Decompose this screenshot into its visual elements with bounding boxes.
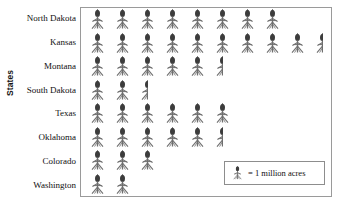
wheat-stalk-icon <box>110 127 135 148</box>
pictograph-row <box>81 102 331 126</box>
wheat-stalk-icon <box>260 33 285 54</box>
pictograph-row <box>81 32 331 56</box>
wheat-stalk-icon <box>185 127 210 148</box>
wheat-stalk-icon <box>185 56 210 77</box>
wheat-stalk-icon <box>160 56 185 77</box>
wheat-stalk-icon <box>185 33 210 54</box>
wheat-stalk-icon <box>110 9 135 30</box>
wheat-stalk-icon <box>85 80 110 101</box>
wheat-stalk-icon <box>160 33 185 54</box>
wheat-stalk-icon <box>85 33 110 54</box>
legend-label: = 1 million acres <box>246 168 305 178</box>
category-label-north-dakota: North Dakota <box>8 7 79 31</box>
category-labels: North Dakota Kansas Montana South Dakota… <box>8 7 79 197</box>
wheat-stalk-icon <box>85 150 110 171</box>
category-label-washington: Washington <box>8 173 79 197</box>
wheat-stalk-icon <box>135 33 160 54</box>
wheat-stalk-icon <box>210 33 235 54</box>
category-label-oklahoma: Oklahoma <box>8 126 79 150</box>
wheat-stalk-half-icon <box>310 33 335 54</box>
wheat-stalk-icon <box>110 80 135 101</box>
wheat-stalk-icon <box>135 150 160 171</box>
legend: = 1 million acres <box>224 161 325 185</box>
wheat-stalk-icon <box>135 127 160 148</box>
wheat-stalk-icon <box>210 9 235 30</box>
wheat-stalk-icon <box>85 127 110 148</box>
category-label-kansas: Kansas <box>8 31 79 55</box>
wheat-stalk-icon <box>229 164 246 182</box>
wheat-stalk-icon <box>160 103 185 124</box>
wheat-stalk-icon <box>135 103 160 124</box>
pictograph-row <box>81 8 331 32</box>
wheat-stalk-icon <box>110 174 135 195</box>
wheat-stalk-icon <box>110 56 135 77</box>
wheat-stalk-icon <box>135 56 160 77</box>
pictograph-row <box>81 79 331 103</box>
wheat-stalk-icon <box>110 103 135 124</box>
wheat-stalk-icon <box>85 174 110 195</box>
wheat-stalk-half-icon <box>210 127 235 148</box>
wheat-stalk-icon <box>235 33 260 54</box>
wheat-stalk-icon <box>185 9 210 30</box>
pictograph-row <box>81 55 331 79</box>
wheat-stalk-half-icon <box>210 56 235 77</box>
wheat-stalk-icon <box>260 9 285 30</box>
wheat-stalk-icon <box>135 9 160 30</box>
pictograph-row <box>81 126 331 150</box>
wheat-stalk-icon <box>110 33 135 54</box>
wheat-stalk-icon <box>235 9 260 30</box>
wheat-stalk-icon <box>160 127 185 148</box>
wheat-stalk-icon <box>110 150 135 171</box>
wheat-stalk-icon <box>160 9 185 30</box>
wheat-stalk-half-icon <box>135 80 160 101</box>
category-label-south-dakota: South Dakota <box>8 78 79 102</box>
wheat-stalk-icon <box>185 103 210 124</box>
wheat-stalk-icon <box>85 103 110 124</box>
wheat-stalk-icon <box>85 56 110 77</box>
wheat-stalk-icon <box>85 9 110 30</box>
pictograph-chart: States North Dakota Kansas Montana South… <box>0 0 338 201</box>
category-label-colorado: Colorado <box>8 150 79 174</box>
category-label-montana: Montana <box>8 55 79 79</box>
wheat-stalk-icon <box>285 33 310 54</box>
wheat-stalk-icon <box>210 103 235 124</box>
category-label-texas: Texas <box>8 102 79 126</box>
